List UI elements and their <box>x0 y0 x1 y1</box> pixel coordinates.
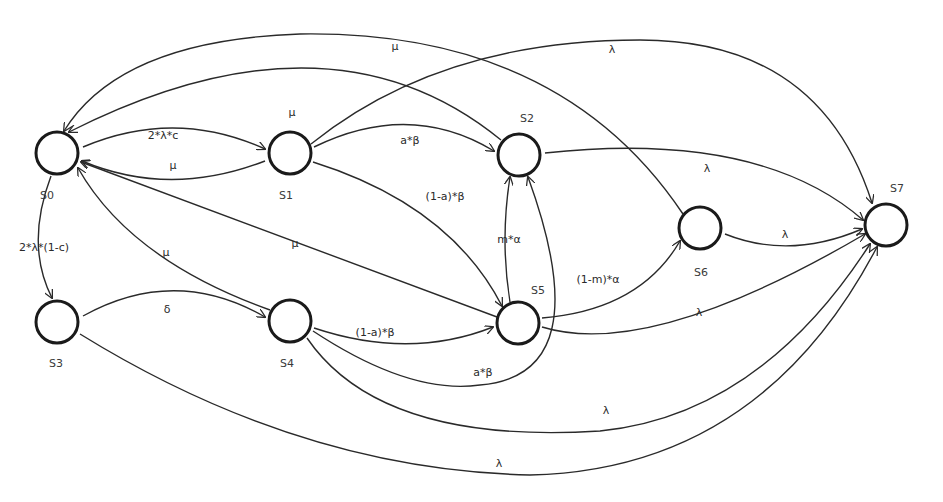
state-label: S4 <box>280 357 294 370</box>
edge-s4-to-s2 <box>313 177 555 386</box>
state-label: S2 <box>520 112 534 125</box>
state-label: S6 <box>694 266 708 279</box>
state-node-s2: S2 <box>498 112 540 176</box>
edge-label-s0-s1: 2*λ*c <box>148 129 179 142</box>
state-label: S0 <box>40 189 54 202</box>
edge-label-s4-s2: a*β <box>473 366 492 379</box>
state-node-s4: S4 <box>269 300 311 370</box>
edge-s6-to-s7 <box>725 229 862 246</box>
state-label: S7 <box>890 182 904 195</box>
edge-label-s3-s7: λ <box>496 457 503 470</box>
edge-label-s6-s7: λ <box>782 228 789 241</box>
edge-label-s1-s5: (1-a)*β <box>426 190 465 203</box>
state-node-s3: S3 <box>36 301 78 370</box>
nodes-layer: S0S1S2S3S4S5S6S7 <box>36 112 907 370</box>
state-node-s5: S5 <box>497 284 545 344</box>
edge-label-s5-s7: λ <box>696 306 703 319</box>
edge-label-s3-s4: δ <box>164 303 171 316</box>
edge-label-s2-s0: μ <box>289 106 296 119</box>
edge-label-s5-s6: (1-m)*α <box>576 273 619 286</box>
state-circle-icon <box>497 302 539 344</box>
state-label: S5 <box>531 284 545 297</box>
state-diagram: 2*λ*cμ2*λ*(1-c)δμμμμa*β(1-a)*βλ(1-a)*βa*… <box>0 0 943 502</box>
edge-label-s2-s7: λ <box>704 162 711 175</box>
state-circle-icon <box>36 132 78 174</box>
edge-s3-to-s4 <box>83 291 265 317</box>
edge-s1-to-s5 <box>313 162 502 306</box>
edge-label-s5-s0: μ <box>292 237 299 250</box>
state-circle-icon <box>269 300 311 342</box>
edge-label-s4-s7: λ <box>603 404 610 417</box>
state-node-s0: S0 <box>36 132 78 202</box>
state-label: S1 <box>279 189 293 202</box>
edge-s3-to-s7 <box>80 247 877 475</box>
edge-s6-to-s0 <box>64 34 683 214</box>
edge-s4-to-s5 <box>314 327 493 344</box>
state-circle-icon <box>269 132 311 174</box>
edge-labels-layer: 2*λ*cμ2*λ*(1-c)δμμμμa*β(1-a)*βλ(1-a)*βa*… <box>19 40 789 470</box>
edge-s1-to-s7 <box>311 40 872 203</box>
edge-s2-to-s0 <box>69 68 501 140</box>
edge-label-s4-s0: μ <box>163 246 170 259</box>
edge-label-s1-s0: μ <box>170 159 177 172</box>
state-node-s6: S6 <box>679 207 721 279</box>
state-circle-icon <box>36 301 78 343</box>
state-node-s7: S7 <box>865 182 907 246</box>
state-circle-icon <box>865 204 907 246</box>
edge-s4-to-s0 <box>78 168 270 310</box>
edge-label-s0-s3: 2*λ*(1-c) <box>19 241 69 254</box>
state-node-s1: S1 <box>269 132 311 202</box>
state-label: S3 <box>49 357 63 370</box>
state-circle-icon <box>498 134 540 176</box>
edge-label-s4-s5: (1-a)*β <box>356 326 395 339</box>
edge-label-s1-s2: a*β <box>400 134 419 147</box>
edge-label-s5-s2: m*α <box>497 233 520 246</box>
state-circle-icon <box>679 207 721 249</box>
edge-label-s6-s0: μ <box>392 40 399 53</box>
edge-label-s1-s7: λ <box>609 43 616 56</box>
